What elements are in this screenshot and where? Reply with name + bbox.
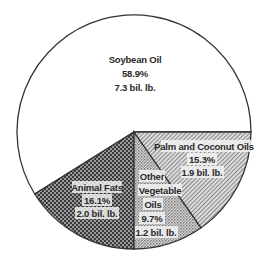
animal-value: 2.0 bil. lb. xyxy=(77,208,118,219)
palm-percent: 15.3% xyxy=(189,154,216,165)
pie-chart: Soybean Oil 58.9% 7.3 bil. lb. Palm and … xyxy=(0,0,263,259)
animal-percent: 16.1% xyxy=(84,195,111,206)
soybean-value: 7.3 bil. lb. xyxy=(115,82,156,93)
other-percent: 9.7% xyxy=(142,213,164,224)
other-line2: Vegetable xyxy=(139,185,182,196)
other-line1: Other xyxy=(140,171,165,182)
animal-name: Animal Fats xyxy=(71,182,123,193)
other-value: 1.2 bil. lb. xyxy=(136,227,177,238)
palm-name: Palm and Coconut Oils xyxy=(154,141,254,152)
palm-value: 1.9 bil. lb. xyxy=(182,167,223,178)
soybean-name: Soybean Oil xyxy=(109,54,162,65)
soybean-percent: 58.9% xyxy=(122,68,149,79)
other-line3: Oils xyxy=(144,199,161,210)
